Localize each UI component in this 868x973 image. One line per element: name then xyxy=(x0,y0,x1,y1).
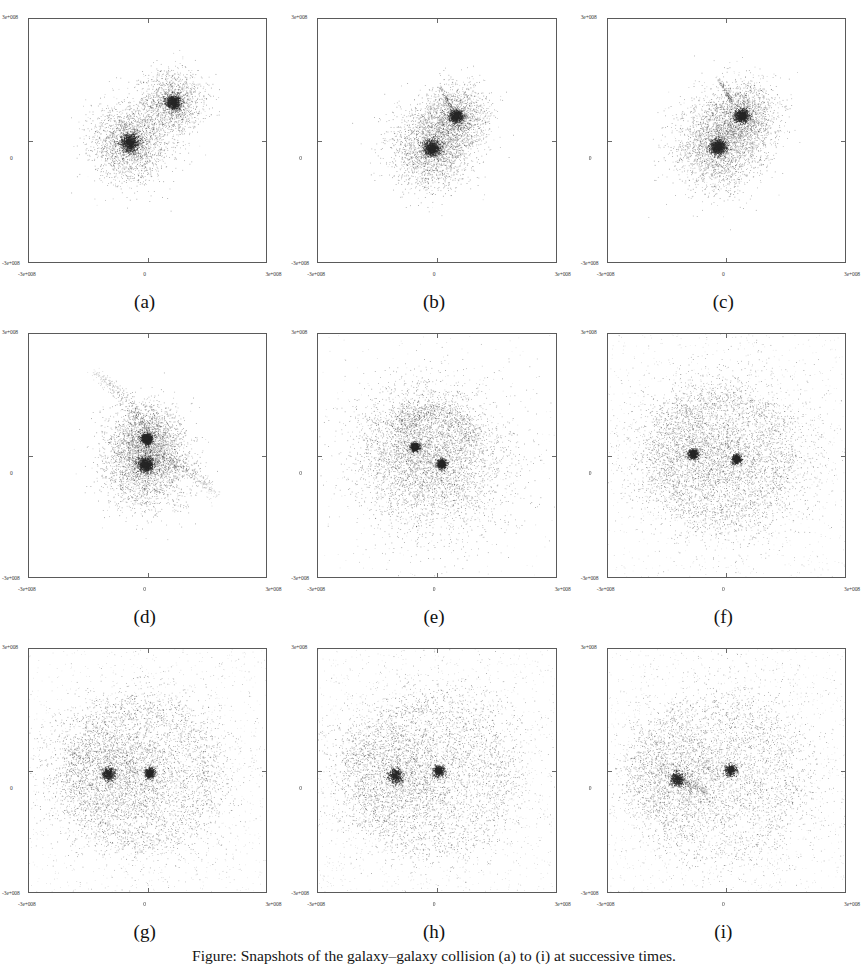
plot-area-e xyxy=(317,333,556,578)
x-axis-label-mid: 0 xyxy=(722,901,725,907)
y-axis-label-mid: 0 xyxy=(10,155,13,161)
y-axis-label-bottom: -3e+008 xyxy=(2,575,20,581)
plot-area-g xyxy=(28,648,267,893)
y-axis-label-mid: 0 xyxy=(10,470,13,476)
panel-i: 3e+008 0 -3e+008 -3e+008 0 3e+008 (i) xyxy=(579,630,868,945)
figure-caption: Figure: Snapshots of the galaxy–galaxy c… xyxy=(0,945,868,973)
x-axis-label-right: 3e+008 xyxy=(844,901,860,907)
scatter-canvas-f xyxy=(608,334,845,577)
y-axis-label-bottom: -3e+008 xyxy=(581,890,599,896)
y-axis-label-bottom: -3e+008 xyxy=(581,260,599,266)
panel-label-b: (b) xyxy=(289,291,578,313)
plot-area-c xyxy=(607,18,846,263)
y-axis-label-bottom: -3e+008 xyxy=(291,260,309,266)
panel-label-g: (g) xyxy=(0,921,289,943)
scatter-canvas-c xyxy=(608,19,845,262)
y-axis-label-mid: 0 xyxy=(299,155,302,161)
plot-area-i xyxy=(607,648,846,893)
y-axis-label-mid: 0 xyxy=(589,470,592,476)
y-axis-label-top: 3e+008 xyxy=(581,14,597,20)
y-axis-label-bottom: -3e+008 xyxy=(2,260,20,266)
scatter-canvas-d xyxy=(29,334,266,577)
x-axis-label-right: 3e+008 xyxy=(555,901,571,907)
x-axis-label-left: -3e+008 xyxy=(18,586,36,592)
y-axis-label-top: 3e+008 xyxy=(581,329,597,335)
panel-c: 3e+008 0 -3e+008 -3e+008 0 3e+008 (c) xyxy=(579,0,868,315)
y-axis-label-mid: 0 xyxy=(299,470,302,476)
panel-h: 3e+008 0 -3e+008 -3e+008 0 3e+008 (h) xyxy=(289,630,578,945)
scatter-canvas-h xyxy=(318,649,555,892)
x-axis-label-mid: 0 xyxy=(722,271,725,277)
y-axis-label-top: 3e+008 xyxy=(291,644,307,650)
x-axis-label-left: -3e+008 xyxy=(307,901,325,907)
x-axis-label-right: 3e+008 xyxy=(265,586,281,592)
figure-root: 3e+008 0 -3e+008 -3e+008 0 3e+008 (a) 3e… xyxy=(0,0,868,973)
x-axis-label-left: -3e+008 xyxy=(307,271,325,277)
panel-label-h: (h) xyxy=(289,921,578,943)
y-axis-label-bottom: -3e+008 xyxy=(2,890,20,896)
y-axis-label-top: 3e+008 xyxy=(2,329,18,335)
x-axis-label-mid: 0 xyxy=(722,586,725,592)
y-axis-label-top: 3e+008 xyxy=(291,329,307,335)
scatter-canvas-i xyxy=(608,649,845,892)
panel-a: 3e+008 0 -3e+008 -3e+008 0 3e+008 (a) xyxy=(0,0,289,315)
x-axis-label-left: -3e+008 xyxy=(18,901,36,907)
y-axis-label-mid: 0 xyxy=(589,155,592,161)
panel-label-f: (f) xyxy=(579,606,868,628)
x-axis-label-mid: 0 xyxy=(433,586,436,592)
panel-label-a: (a) xyxy=(0,291,289,313)
x-axis-label-left: -3e+008 xyxy=(597,271,615,277)
panel-f: 3e+008 0 -3e+008 -3e+008 0 3e+008 (f) xyxy=(579,315,868,630)
y-axis-label-top: 3e+008 xyxy=(2,14,18,20)
y-axis-label-mid: 0 xyxy=(299,785,302,791)
y-axis-label-bottom: -3e+008 xyxy=(581,575,599,581)
x-axis-label-mid: 0 xyxy=(143,271,146,277)
x-axis-label-right: 3e+008 xyxy=(844,586,860,592)
x-axis-label-mid: 0 xyxy=(433,271,436,277)
y-axis-label-top: 3e+008 xyxy=(581,644,597,650)
x-axis-label-left: -3e+008 xyxy=(597,901,615,907)
panel-d: 3e+008 0 -3e+008 -3e+008 0 3e+008 (d) xyxy=(0,315,289,630)
panel-b: 3e+008 0 -3e+008 -3e+008 0 3e+008 (b) xyxy=(289,0,578,315)
x-axis-label-right: 3e+008 xyxy=(265,901,281,907)
y-axis-label-top: 3e+008 xyxy=(291,14,307,20)
x-axis-label-mid: 0 xyxy=(433,901,436,907)
x-axis-label-mid: 0 xyxy=(143,901,146,907)
x-axis-label-right: 3e+008 xyxy=(555,271,571,277)
y-axis-label-bottom: -3e+008 xyxy=(291,890,309,896)
y-axis-label-top: 3e+008 xyxy=(2,644,18,650)
x-axis-label-left: -3e+008 xyxy=(307,586,325,592)
panel-label-e: (e) xyxy=(289,606,578,628)
panel-g: 3e+008 0 -3e+008 -3e+008 0 3e+008 (g) xyxy=(0,630,289,945)
scatter-canvas-g xyxy=(29,649,266,892)
plot-area-b xyxy=(317,18,556,263)
panel-label-c: (c) xyxy=(579,291,868,313)
plot-area-f xyxy=(607,333,846,578)
panel-label-d: (d) xyxy=(0,606,289,628)
scatter-canvas-b xyxy=(318,19,555,262)
plot-area-h xyxy=(317,648,556,893)
x-axis-label-left: -3e+008 xyxy=(18,271,36,277)
y-axis-label-mid: 0 xyxy=(589,785,592,791)
scatter-canvas-e xyxy=(318,334,555,577)
x-axis-label-right: 3e+008 xyxy=(844,271,860,277)
x-axis-label-left: -3e+008 xyxy=(597,586,615,592)
x-axis-label-mid: 0 xyxy=(143,586,146,592)
plot-area-d xyxy=(28,333,267,578)
y-axis-label-bottom: -3e+008 xyxy=(291,575,309,581)
plot-area-a xyxy=(28,18,267,263)
panel-e: 3e+008 0 -3e+008 -3e+008 0 3e+008 (e) xyxy=(289,315,578,630)
panel-grid: 3e+008 0 -3e+008 -3e+008 0 3e+008 (a) 3e… xyxy=(0,0,868,945)
x-axis-label-right: 3e+008 xyxy=(555,586,571,592)
y-axis-label-mid: 0 xyxy=(10,785,13,791)
panel-label-i: (i) xyxy=(579,921,868,943)
x-axis-label-right: 3e+008 xyxy=(265,271,281,277)
scatter-canvas-a xyxy=(29,19,266,262)
